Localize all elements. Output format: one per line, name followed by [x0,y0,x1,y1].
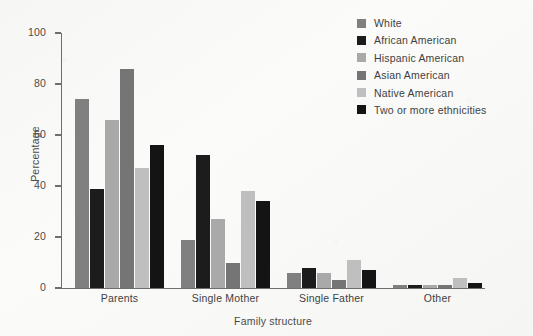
x-axis-line [61,288,485,289]
legend-label: White [374,17,402,29]
bar [362,270,376,288]
bar [347,260,361,288]
x-axis-title: Family structure [61,315,485,327]
y-tick-mark [55,287,61,288]
legend-label: Hispanic American [374,52,464,64]
legend-color-swatch [357,53,366,62]
y-tick-mark [55,83,61,84]
bar [105,120,119,288]
bar [332,280,346,288]
y-tick-mark [55,185,61,186]
legend: WhiteAfrican AmericanHispanic AmericanAs… [357,17,487,116]
bar [226,263,240,289]
legend-item: Hispanic American [357,52,487,64]
legend-item: Native American [357,87,487,99]
y-tick-label: 20 [12,230,46,242]
legend-label: African American [374,34,457,46]
bar-group [75,33,164,288]
legend-color-swatch [357,36,366,45]
y-tick-mark [55,134,61,135]
legend-color-swatch [357,19,366,28]
bar-chart: 020406080100 Percentage Family structure… [0,0,533,336]
bar [90,189,104,288]
bar-group [181,33,270,288]
legend-color-swatch [357,88,366,97]
bar [302,268,316,288]
bar [120,69,134,288]
bar [287,273,301,288]
bar [438,285,452,288]
y-tick-label: 100 [12,26,46,38]
bar [256,201,270,288]
bar [393,285,407,288]
legend-label: Two or more ethnicities [374,104,487,116]
legend-color-swatch [357,71,366,80]
y-axis-title: Percentage [29,99,41,209]
legend-color-swatch [357,105,366,114]
legend-item: Asian American [357,69,487,81]
y-tick-label: 80 [12,77,46,89]
legend-item: White [357,17,487,29]
bar [241,191,255,288]
bar [423,285,437,288]
bar [317,273,331,288]
bar [408,285,422,288]
bar [211,219,225,288]
bar [468,283,482,288]
bar [181,240,195,288]
y-tick-mark [55,236,61,237]
x-axis-category-label: Other [371,292,504,304]
bar [453,278,467,288]
y-tick-label: 0 [12,281,46,293]
legend-label: Asian American [374,69,450,81]
legend-label: Native American [374,87,453,99]
bar [150,145,164,288]
bar [135,168,149,288]
legend-item: African American [357,34,487,46]
y-tick-mark [55,32,61,33]
legend-item: Two or more ethnicities [357,104,487,116]
bar [75,99,89,288]
bar [196,155,210,288]
